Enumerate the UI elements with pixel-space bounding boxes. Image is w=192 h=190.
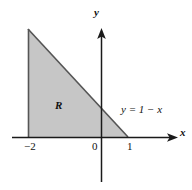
x-tick-label-one: 1 bbox=[127, 141, 133, 152]
x-axis-label: x bbox=[180, 127, 186, 138]
x-tick-label-zero: 0 bbox=[92, 141, 98, 152]
x-tick-label-neg2: −2 bbox=[24, 141, 36, 152]
region-label-R: R bbox=[55, 100, 62, 111]
figure-canvas bbox=[0, 0, 192, 190]
y-axis-label: y bbox=[94, 7, 99, 18]
math-figure-region-R: y x −2 0 1 R y = 1 − x bbox=[0, 0, 192, 190]
curve-equation-label: y = 1 − x bbox=[121, 104, 162, 115]
